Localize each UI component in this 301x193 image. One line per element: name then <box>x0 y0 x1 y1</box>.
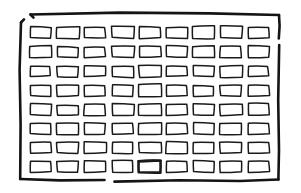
grid-cell-r8-c3[interactable] <box>84 161 106 173</box>
grid-cell-r5-c7[interactable] <box>193 104 214 116</box>
grid-cell-r4-c2[interactable] <box>57 85 79 97</box>
grid-cell-r7-c5[interactable] <box>139 142 162 153</box>
right-edge-upper <box>279 15 280 39</box>
grid-cell-r3-c2[interactable] <box>57 66 79 77</box>
grid-cell-emphasis-top-edge <box>139 161 161 162</box>
grid-cell-r2-c2[interactable] <box>57 47 78 58</box>
grid-cell-r8-c2[interactable] <box>57 161 79 172</box>
grid-cell-r6-c6[interactable] <box>166 123 187 135</box>
grid-cell-r5-c5[interactable] <box>138 104 161 116</box>
grid-cell-r7-c7[interactable] <box>193 142 214 153</box>
grid-cell-r4-c6[interactable] <box>166 85 187 96</box>
grid-cell-r1-c2[interactable] <box>56 27 79 39</box>
grid-cell-r1-c7[interactable] <box>192 26 214 39</box>
grid-cell-r3-c7[interactable] <box>193 65 214 76</box>
grid-cell-r7-c6[interactable] <box>166 141 188 153</box>
grid-cell-r4-c4[interactable] <box>112 85 133 97</box>
grid-cell-r6-c1[interactable] <box>30 123 51 134</box>
grid-cell-r3-c3[interactable] <box>84 66 106 77</box>
grid-cell-r8-c5[interactable] <box>138 161 160 173</box>
grid-cell-r4-c1[interactable] <box>30 85 51 96</box>
grid-cell-r4-c9[interactable] <box>248 85 269 96</box>
grid-cell-r3-c5[interactable] <box>139 65 162 77</box>
grid-cell-r5-c4[interactable] <box>112 103 134 115</box>
grid-cell-r3-c9[interactable] <box>248 66 268 76</box>
grid-cell-r2-c9[interactable] <box>248 46 269 58</box>
grid-cell-r7-c1[interactable] <box>30 142 51 153</box>
grid-cell-r1-c6[interactable] <box>166 27 188 38</box>
grid-cell-r1-c9[interactable] <box>248 27 269 38</box>
grid-cell-r4-c3[interactable] <box>84 85 105 96</box>
sketch-canvas: Hand-drawn grid wireframe sketch <box>0 0 301 193</box>
grid-cell-r8-c1[interactable] <box>30 161 51 172</box>
grid-cell-r7-c4[interactable] <box>112 142 132 154</box>
grid-cell-r8-c4[interactable] <box>112 160 133 172</box>
grid-cell-r5-c2[interactable] <box>57 105 79 115</box>
grid-cell-r3-c4[interactable] <box>112 66 134 77</box>
grid-cell-r6-c9[interactable] <box>248 123 269 134</box>
bottom-edge-right <box>115 180 279 182</box>
grid-cell-r4-c8[interactable] <box>220 85 242 96</box>
grid-cell-r1-c1[interactable] <box>30 27 51 39</box>
grid-cell-r2-c8[interactable] <box>220 46 242 58</box>
grid-cell-r2-c7[interactable] <box>192 46 214 58</box>
bottom-edge-left <box>20 179 104 180</box>
grid-cell-r1-c4[interactable] <box>112 26 135 38</box>
grid-cell-r1-c5[interactable] <box>139 26 160 38</box>
grid-cell-r7-c9[interactable] <box>248 142 269 153</box>
grid-cell-r3-c6[interactable] <box>166 66 187 76</box>
grid-cell-r7-c2[interactable] <box>57 142 79 153</box>
grid-cell-r5-c9[interactable] <box>248 103 269 115</box>
right-edge-lower <box>278 45 279 180</box>
grid-cell-r4-c7[interactable] <box>193 86 213 97</box>
grid-cell-r6-c7[interactable] <box>193 123 214 135</box>
grid-cell-r5-c8[interactable] <box>220 104 243 116</box>
grid-cell-r5-c1[interactable] <box>30 104 51 116</box>
grid-cell-r8-c6[interactable] <box>166 161 187 172</box>
grid-cell-r8-c9[interactable] <box>248 161 269 172</box>
grid-cell-r2-c4[interactable] <box>112 46 135 58</box>
grid-cell-r6-c4[interactable] <box>112 123 133 134</box>
grid-cell-r6-c2[interactable] <box>56 123 78 135</box>
grid-cell-r5-c3[interactable] <box>84 104 106 116</box>
grid-cell-r2-c3[interactable] <box>84 47 105 58</box>
left-top-hook <box>21 19 24 22</box>
top-edge <box>31 13 280 15</box>
grid-cell-r7-c8[interactable] <box>220 142 242 153</box>
grid-cell-r2-c1[interactable] <box>29 46 51 58</box>
grid-cell-r7-c3[interactable] <box>84 142 107 154</box>
grid-cell-r6-c8[interactable] <box>220 123 242 135</box>
grid-cell-r6-c5[interactable] <box>138 123 161 135</box>
cell-grid <box>29 26 269 173</box>
grid-cell-r1-c3[interactable] <box>84 27 105 38</box>
grid-cell-r8-c8[interactable] <box>220 161 242 173</box>
grid-cell-r4-c5[interactable] <box>138 84 161 97</box>
grid-cell-r2-c6[interactable] <box>166 45 187 57</box>
grid-cell-r6-c3[interactable] <box>84 123 105 135</box>
grid-cell-r8-c7[interactable] <box>193 160 214 172</box>
sketch-drawing <box>0 0 301 193</box>
grid-cell-r3-c8[interactable] <box>220 66 243 78</box>
grid-cell-r1-c8[interactable] <box>220 26 242 39</box>
grid-cell-r5-c6[interactable] <box>166 104 187 115</box>
grid-cell-r2-c5[interactable] <box>139 46 161 57</box>
grid-cell-r3-c1[interactable] <box>30 66 50 76</box>
left-edge <box>20 23 21 180</box>
